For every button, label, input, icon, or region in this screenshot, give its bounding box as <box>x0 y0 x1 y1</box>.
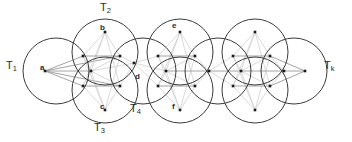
edge-a-v1 <box>45 56 83 71</box>
disk-label-base: T <box>6 59 13 71</box>
disk-label-Tk: Tk <box>324 60 334 71</box>
vertex-point-v12 <box>232 55 235 58</box>
vertex-point-e <box>179 31 182 34</box>
vertex-label-f: f <box>172 103 175 111</box>
vertex-point-v3 <box>90 70 93 73</box>
disk-label-T4: T4 <box>130 103 141 114</box>
vertex-point-v9 <box>194 55 197 58</box>
vertex-label-a: a <box>40 64 44 72</box>
edges-group <box>45 32 305 110</box>
edge-a-v5 <box>45 71 120 86</box>
disk-circle-c6 <box>147 57 213 123</box>
disk-label-base: T <box>324 59 331 71</box>
vertex-point-k <box>304 70 307 73</box>
edge-v13-v15 <box>233 71 241 86</box>
vertex-label-c: c <box>100 103 104 111</box>
vertex-point-v6 <box>157 55 160 58</box>
vertex-point-v19 <box>283 70 286 73</box>
disk-label-subscript: k <box>331 64 335 73</box>
edge-v9-v11 <box>195 56 209 71</box>
vertex-point-v5 <box>119 85 122 88</box>
vertex-point-v18 <box>254 109 257 112</box>
edge-b-v4 <box>105 32 120 56</box>
vertex-point-v11 <box>208 70 211 73</box>
disk-label-subscript: 4 <box>137 107 141 116</box>
edge-v5-d <box>120 63 134 86</box>
disk-label-T3: T3 <box>94 122 105 133</box>
vertex-point-v4 <box>119 55 122 58</box>
edge-c-v5 <box>105 86 120 110</box>
edge-a-v2 <box>45 71 83 86</box>
edge-v17-v19 <box>270 71 284 86</box>
vertex-point-v2 <box>82 85 85 88</box>
vertex-point-d <box>133 62 136 65</box>
disk-label-base: T <box>94 121 101 133</box>
edge-v16-v19 <box>270 56 284 71</box>
vertex-point-v7 <box>157 85 160 88</box>
vertex-label-e: e <box>172 22 176 30</box>
edge-v7-v8 <box>158 71 166 86</box>
vertex-point-v8 <box>165 70 168 73</box>
disk-circle-c8 <box>222 19 288 85</box>
vertex-point-v14 <box>254 31 257 34</box>
vertex-label-d: d <box>135 73 140 81</box>
vertex-point-v10 <box>194 85 197 88</box>
vertex-label-b: b <box>100 24 105 32</box>
edge-v14-v16 <box>255 32 270 56</box>
edge-v18-v17 <box>255 86 270 110</box>
edge-v14-v17 <box>255 32 270 86</box>
edge-b-v1 <box>83 32 105 56</box>
edge-a-v4 <box>45 56 120 71</box>
disk-label-base: T <box>100 1 107 13</box>
disk-label-subscript: 3 <box>101 126 105 135</box>
disk-circle-T2 <box>72 19 138 85</box>
disk-circle-T3 <box>72 57 138 123</box>
vertex-point-v17 <box>269 85 272 88</box>
vertex-point-v13 <box>232 85 235 88</box>
edge-v12-v15 <box>233 56 241 71</box>
disk-label-base: T <box>130 102 137 114</box>
edge-v3-d <box>91 63 134 71</box>
disk-label-subscript: 1 <box>13 64 17 73</box>
edge-v6-v8 <box>158 56 166 71</box>
edge-e-v9 <box>180 32 195 56</box>
vertex-point-v16 <box>269 55 272 58</box>
disk-label-T1: T1 <box>6 60 17 71</box>
disk-circle-T4 <box>147 19 213 85</box>
edge-v10-v11 <box>195 71 209 86</box>
disk-chain-figure: T1T2T3T4Tk abcdef <box>0 0 352 142</box>
disk-label-subscript: 2 <box>107 6 111 15</box>
disk-circle-c9 <box>222 57 288 123</box>
disk-label-T2: T2 <box>100 2 111 13</box>
edge-f-v10 <box>180 86 195 110</box>
vertex-point-v1 <box>82 55 85 58</box>
edge-v18-v16 <box>255 56 270 110</box>
vertex-point-f <box>179 109 182 112</box>
vertex-point-v15 <box>240 70 243 73</box>
